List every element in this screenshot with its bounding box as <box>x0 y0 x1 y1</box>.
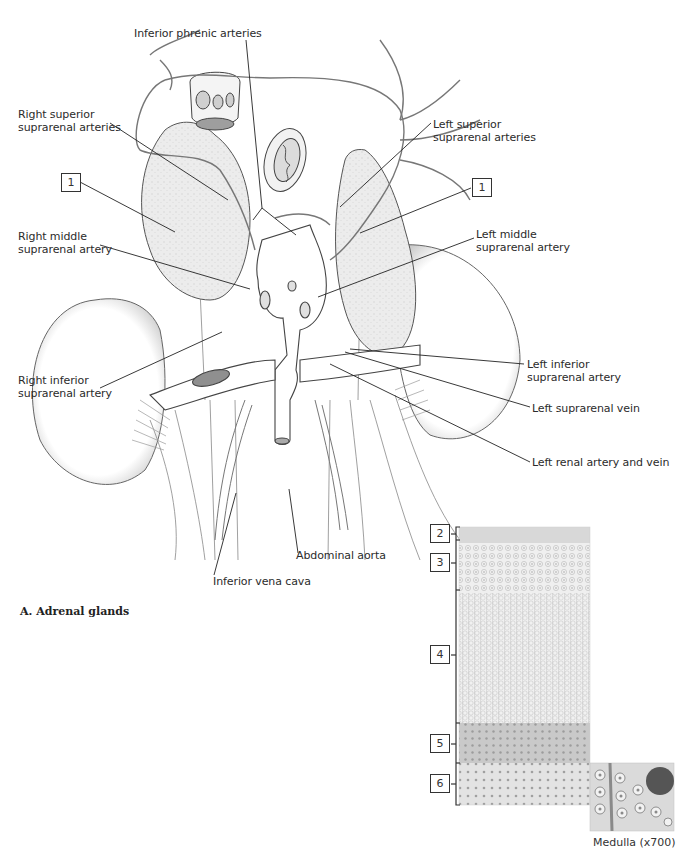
number-box-right-gland: 1 <box>61 173 81 192</box>
number-box-layer-2: 2 <box>430 524 450 543</box>
number-box-layer-5: 5 <box>430 734 450 753</box>
label-left-inferior-suprarenal-artery: Left inferior suprarenal artery <box>527 358 621 384</box>
number-box-left-gland: 1 <box>472 178 492 197</box>
label-left-suprarenal-vein: Left suprarenal vein <box>532 402 640 415</box>
abdominal-aorta <box>257 225 326 445</box>
label-left-superior-suprarenal-arteries: Left superior suprarenal arteries <box>433 118 536 144</box>
label-abdominal-aorta: Abdominal aorta <box>296 549 386 562</box>
histology-section <box>451 527 674 831</box>
label-right-middle-suprarenal-artery: Right middle suprarenal artery <box>18 230 112 256</box>
number-box-layer-6: 6 <box>430 774 450 793</box>
medulla-inset <box>590 763 674 831</box>
label-inferior-vena-cava: Inferior vena cava <box>213 575 311 588</box>
esophagus-cross-section <box>257 124 312 196</box>
label-inferior-phrenic-arteries: Inferior phrenic arteries <box>134 27 262 40</box>
label-left-middle-suprarenal-artery: Left middle suprarenal artery <box>476 228 570 254</box>
medulla-inset-caption: Medulla (x700) <box>593 836 676 849</box>
adrenal-glands-figure: Inferior phrenic arteries Right superior… <box>0 0 694 858</box>
figure-caption: A. Adrenal glands <box>20 605 129 618</box>
number-box-layer-3: 3 <box>430 553 450 572</box>
label-right-inferior-suprarenal-artery: Right inferior suprarenal artery <box>18 374 112 400</box>
celiac-cross-section <box>190 72 240 130</box>
number-box-layer-4: 4 <box>430 645 450 664</box>
label-right-superior-suprarenal-arteries: Right superior suprarenal arteries <box>18 108 121 134</box>
label-left-renal-artery-and-vein: Left renal artery and vein <box>532 456 669 469</box>
left-adrenal-gland <box>336 149 416 355</box>
